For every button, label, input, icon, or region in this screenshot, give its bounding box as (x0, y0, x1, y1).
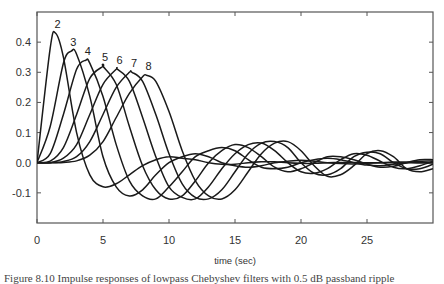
series-label-order-4: 4 (85, 45, 91, 57)
x-tick-label: 0 (34, 234, 40, 246)
series-label-order-6: 6 (116, 54, 122, 66)
series-line-order-5 (37, 64, 433, 199)
y-tick-label: 0.0 (16, 157, 31, 169)
y-tick-label: -0.1 (12, 187, 31, 199)
y-tick-label: 0.2 (16, 96, 31, 108)
series-line-order-8 (37, 75, 433, 200)
x-axis-title: time (sec) (214, 255, 256, 266)
figure-caption: Figure 8.10 Impulse responses of lowpass… (4, 272, 394, 284)
series-label-order-2: 2 (54, 18, 60, 30)
x-tick-label: 5 (100, 234, 106, 246)
plot-border (37, 12, 433, 223)
plot-frame (37, 12, 433, 223)
impulse-response-chart: 0510152025 -0.10.00.10.20.30.4 2345678 t… (0, 0, 444, 268)
series-label-order-3: 3 (70, 36, 76, 48)
y-tick-label: 0.3 (16, 66, 31, 78)
x-tick-label: 15 (229, 234, 241, 246)
series-label-order-5: 5 (102, 51, 108, 63)
series-line-order-6 (37, 68, 433, 200)
x-tick-label: 10 (163, 234, 175, 246)
series-label-order-8: 8 (145, 60, 151, 72)
y-tick-label: 0.1 (16, 127, 31, 139)
y-tick-label: 0.4 (16, 36, 31, 48)
series-lines (37, 32, 433, 200)
x-tick-label: 20 (295, 234, 307, 246)
x-tick-label: 25 (361, 234, 373, 246)
series-line-order-2 (37, 32, 433, 188)
series-label-order-7: 7 (131, 57, 137, 69)
series-line-order-7 (37, 71, 433, 200)
